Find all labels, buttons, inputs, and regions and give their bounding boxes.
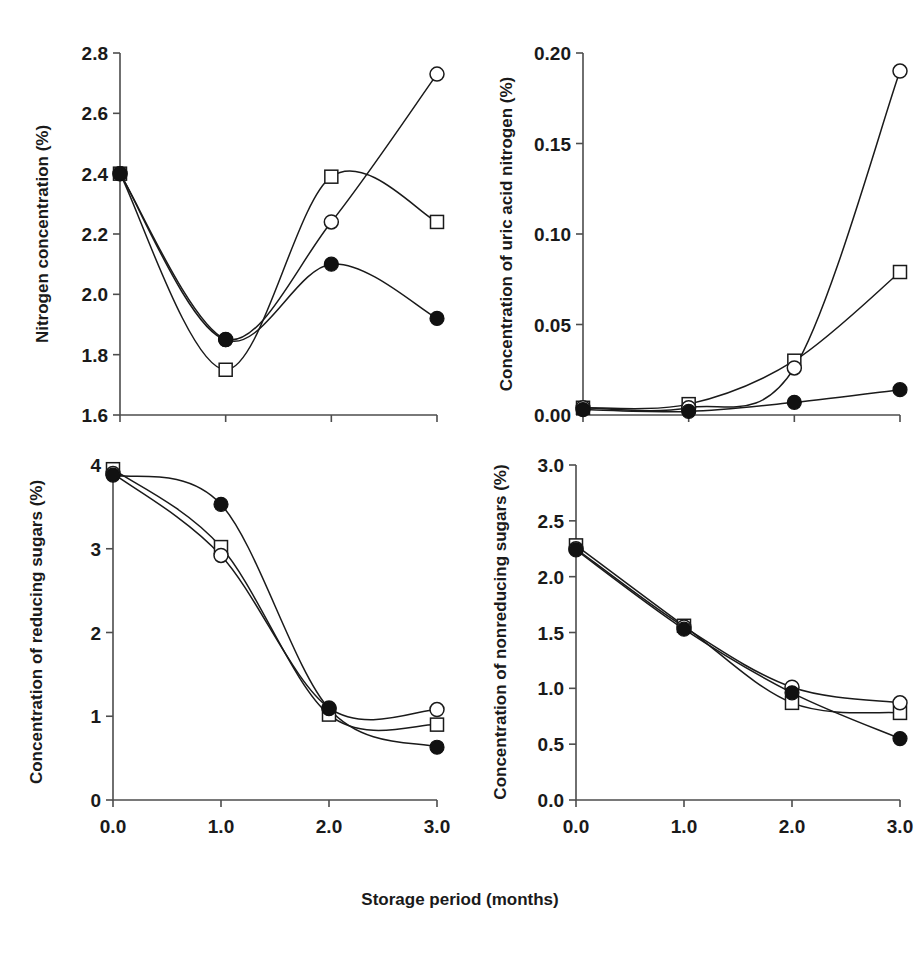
panel-nitrogen-y-tick-label-1: 1.8 [82, 345, 108, 366]
panel-nonreducing-sugars-y-tick-label-6: 3.0 [538, 455, 564, 476]
panel-nonreducing-sugars-y-tick-label-2: 1.0 [538, 678, 564, 699]
panel-nitrogen-marker-filled-circle [219, 333, 233, 347]
panel-reducing-sugars-marker-filled-circle [322, 702, 336, 716]
panel-uric-acid-y-tick-label-2: 0.10 [534, 224, 571, 245]
panel-nitrogen-y-axis-title: Nitrogen concentration (%) [33, 125, 52, 343]
panel-nonreducing-sugars-x-tick-label-2: 2.0 [779, 816, 805, 837]
panel-uric-acid-y-tick-label-4: 0.20 [534, 43, 571, 64]
panel-reducing-sugars-marker-open-square [431, 718, 444, 731]
panel-uric-acid-y-tick-label-0: 0.00 [534, 405, 571, 426]
panel-nonreducing-sugars-y-tick-label-4: 2.0 [538, 567, 564, 588]
panel-nitrogen-marker-filled-circle [113, 167, 127, 181]
panel-reducing-sugars-x-tick-label-3: 3.0 [424, 816, 450, 837]
panel-nonreducing-sugars-y-tick-label-1: 0.5 [538, 734, 565, 755]
panel-reducing-sugars-y-axis-title: Concentration of reducing sugars (%) [27, 480, 46, 784]
panel-nonreducing-sugars-marker-filled-circle [677, 622, 691, 636]
panel-reducing-sugars-marker-filled-circle [106, 468, 120, 482]
panel-reducing-sugars-x-tick-label-1: 1.0 [208, 816, 234, 837]
panel-reducing-sugars-y-tick-label-0: 0 [90, 790, 101, 811]
panel-reducing-sugars-y-tick-label-2: 2 [90, 623, 101, 644]
panel-nitrogen-marker-filled-circle [430, 311, 444, 325]
figure-x-axis-title: Storage period (months) [361, 890, 558, 909]
panel-nonreducing-sugars-marker-open-circle [893, 696, 907, 710]
panel-nonreducing-sugars-y-axis-title: Concentration of nonreducing sugars (%) [491, 464, 510, 799]
panel-nonreducing-sugars-y-tick-label-3: 1.5 [538, 623, 565, 644]
panel-reducing-sugars-y-tick-label-4: 4 [90, 455, 101, 476]
panel-uric-acid-marker-filled-circle [893, 383, 907, 397]
panel-nonreducing-sugars-marker-filled-circle [893, 732, 907, 746]
panel-nonreducing-sugars-marker-filled-circle [785, 686, 799, 700]
panel-reducing-sugars-marker-filled-circle [214, 497, 228, 511]
panel-reducing-sugars-y-tick-label-3: 3 [90, 539, 101, 560]
panel-reducing-sugars-marker-open-circle [430, 703, 444, 717]
panel-nonreducing-sugars-marker-filled-circle [569, 543, 583, 557]
panel-uric-acid-marker-filled-circle [576, 403, 590, 417]
panel-reducing-sugars-marker-filled-circle [430, 740, 444, 754]
panel-nitrogen-y-tick-label-5: 2.6 [82, 103, 108, 124]
panel-reducing-sugars-x-tick-label-0: 0.0 [100, 816, 126, 837]
panel-nitrogen-marker-open-square [431, 215, 444, 228]
panel-nitrogen-marker-open-circle [324, 215, 338, 229]
panel-reducing-sugars-marker-open-circle [214, 548, 228, 562]
panel-uric-acid-y-tick-label-1: 0.05 [534, 315, 571, 336]
panel-uric-acid-marker-open-circle [893, 64, 907, 78]
panel-nitrogen-y-tick-label-3: 2.2 [82, 224, 108, 245]
panel-reducing-sugars-y-tick-label-1: 1 [90, 706, 101, 727]
panel-nitrogen-y-tick-label-4: 2.4 [82, 164, 109, 185]
panel-nitrogen-marker-open-square [219, 363, 232, 376]
panel-uric-acid-marker-open-square [894, 266, 907, 279]
panel-uric-acid-marker-filled-circle [787, 395, 801, 409]
panel-nonreducing-sugars-y-tick-label-5: 2.5 [538, 511, 565, 532]
panel-nonreducing-sugars-x-tick-label-1: 1.0 [671, 816, 697, 837]
panel-nitrogen-y-tick-label-0: 1.6 [82, 405, 108, 426]
panel-nitrogen-y-tick-label-2: 2.0 [82, 284, 108, 305]
panel-reducing-sugars-x-tick-label-2: 2.0 [316, 816, 342, 837]
panel-uric-acid-y-tick-label-3: 0.15 [534, 134, 571, 155]
panel-nitrogen-y-tick-label-6: 2.8 [82, 43, 108, 64]
panel-nitrogen-marker-filled-circle [324, 257, 338, 271]
panel-nitrogen-marker-open-circle [430, 67, 444, 81]
multi-panel-line-chart-figure: Nitrogen concentration (%) 1.61.82.02.22… [0, 0, 921, 953]
panel-nitrogen-marker-open-square [325, 170, 338, 183]
panel-uric-acid-marker-open-circle [787, 361, 801, 375]
panel-nonreducing-sugars-x-tick-label-3: 3.0 [887, 816, 913, 837]
panel-uric-acid-marker-filled-circle [682, 404, 696, 418]
panel-nonreducing-sugars-x-tick-label-0: 0.0 [563, 816, 589, 837]
figure-caption-partial [42, 931, 882, 945]
panel-nonreducing-sugars-y-tick-label-0: 0.0 [538, 790, 564, 811]
panel-uric-acid-y-axis-title: Concentration of uric acid nitrogen (%) [497, 77, 516, 392]
